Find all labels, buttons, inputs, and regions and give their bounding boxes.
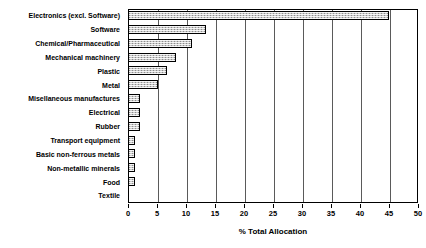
x-tick-label: 45 (385, 209, 393, 218)
bar-row (128, 78, 418, 92)
bar-row (128, 134, 418, 148)
category-label: Electrical (89, 108, 120, 117)
bar (128, 136, 135, 145)
bar (128, 149, 135, 158)
x-tick-mark (273, 204, 274, 208)
x-tick-mark (302, 204, 303, 208)
category-label-row: Transport equipment (0, 134, 124, 148)
x-tick-mark (331, 204, 332, 208)
x-axis-tick-labels: 05101520253035404550 (0, 209, 426, 221)
category-label-row: Basic non-ferrous metals (0, 147, 124, 161)
bar-row (128, 120, 418, 134)
category-label: Metal (102, 81, 120, 90)
bar (128, 53, 176, 62)
category-label: Mechanical machinery (45, 53, 120, 62)
bar (128, 39, 192, 48)
x-tick-mark (360, 204, 361, 208)
bar-row (128, 37, 418, 51)
bar-chart: Electronics (excl. Software)SoftwareChem… (0, 0, 426, 248)
x-tick-label: 30 (298, 209, 306, 218)
bar (128, 80, 158, 89)
bar-row (128, 161, 418, 175)
bar (128, 177, 135, 186)
bar-row (128, 23, 418, 37)
category-label-row: Textile (0, 189, 124, 203)
bar-row (128, 64, 418, 78)
category-label: Chemical/Pharmaceutical (35, 39, 120, 48)
category-label-row: Electronics (excl. Software) (0, 9, 124, 23)
x-tick-mark (157, 204, 158, 208)
category-label-row: Non-metallic minerals (0, 161, 124, 175)
bar-row (128, 106, 418, 120)
bar-row (128, 51, 418, 65)
bar (128, 163, 135, 172)
x-tick-mark (244, 204, 245, 208)
category-label: Rubber (96, 122, 121, 131)
category-label-row: Rubber (0, 120, 124, 134)
x-tick-label: 5 (155, 209, 159, 218)
bar (128, 66, 167, 75)
x-tick-label: 10 (182, 209, 190, 218)
bar (128, 25, 206, 34)
x-tick-label: 40 (356, 209, 364, 218)
x-tick-label: 25 (269, 209, 277, 218)
x-tick-label: 0 (126, 209, 130, 218)
bar (128, 108, 140, 117)
x-tick-label: 35 (327, 209, 335, 218)
category-label: Software (90, 25, 120, 34)
category-label: Food (103, 178, 120, 187)
bar-row (128, 175, 418, 189)
bar (128, 94, 140, 103)
bar-row (128, 9, 418, 23)
category-label: Textile (98, 191, 120, 200)
x-tick-mark (128, 204, 129, 208)
category-label: Transport equipment (50, 136, 120, 145)
category-label-row: Mechanical machinery (0, 51, 124, 65)
category-axis-labels: Electronics (excl. Software)SoftwareChem… (0, 9, 124, 203)
category-label-row: Software (0, 23, 124, 37)
bar-row (128, 189, 418, 203)
category-label-row: Chemical/Pharmaceutical (0, 37, 124, 51)
x-tick-mark (186, 204, 187, 208)
x-tick-label: 50 (414, 209, 422, 218)
x-axis-title: % Total Allocation (128, 227, 418, 236)
bars-layer (128, 9, 418, 203)
x-tick-mark (418, 204, 419, 208)
bar-row (128, 147, 418, 161)
category-label-row: Electrical (0, 106, 124, 120)
bar (128, 122, 140, 131)
category-label: Basic non-ferrous metals (36, 150, 120, 159)
category-label-row: Food (0, 175, 124, 189)
x-tick-mark (389, 204, 390, 208)
category-label: Electronics (excl. Software) (29, 11, 120, 20)
bar-row (128, 92, 418, 106)
category-label: Misellaneous manufactures (28, 94, 120, 103)
x-tick-label: 15 (211, 209, 219, 218)
bar (128, 11, 389, 20)
category-label: Plastic (97, 67, 120, 76)
category-label: Non-metallic minerals (47, 164, 120, 173)
x-tick-label: 20 (240, 209, 248, 218)
category-label-row: Misellaneous manufactures (0, 92, 124, 106)
x-tick-mark (215, 204, 216, 208)
category-label-row: Metal (0, 78, 124, 92)
category-label-row: Plastic (0, 64, 124, 78)
